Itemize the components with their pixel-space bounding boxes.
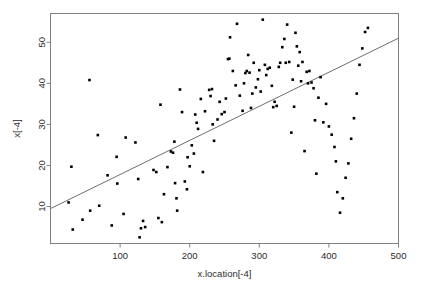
x-tick-label: 400 [321, 250, 337, 261]
data-point [137, 178, 140, 181]
data-point [333, 146, 336, 149]
data-point [225, 97, 228, 100]
data-point [204, 110, 207, 113]
data-point [186, 156, 189, 159]
data-point [98, 204, 101, 207]
data-point [138, 236, 141, 239]
data-point [218, 101, 221, 104]
data-point [220, 113, 223, 116]
data-point [347, 162, 350, 165]
data-points [67, 18, 369, 238]
data-point [293, 105, 296, 108]
data-point [281, 46, 284, 49]
data-point [273, 101, 276, 104]
x-tick-label: 500 [391, 250, 407, 261]
data-point [173, 140, 176, 143]
data-point [265, 74, 268, 77]
data-point [298, 51, 301, 54]
data-point [181, 111, 184, 114]
y-axis-title: x[-4] [11, 119, 22, 137]
data-point [202, 171, 205, 174]
data-point [166, 166, 169, 169]
data-point [197, 128, 200, 131]
data-point [258, 69, 261, 72]
data-point [261, 18, 264, 21]
data-point [300, 80, 303, 83]
data-point [110, 224, 113, 227]
data-point [172, 151, 175, 154]
data-point [116, 182, 119, 185]
data-point [228, 57, 231, 60]
data-point [259, 90, 262, 93]
data-point [67, 201, 70, 204]
data-point [179, 88, 182, 91]
data-point [317, 96, 320, 99]
data-point [312, 87, 315, 90]
data-point [175, 197, 178, 200]
data-point [234, 84, 237, 87]
data-point [232, 70, 235, 73]
data-point [241, 110, 244, 113]
data-point [330, 133, 333, 136]
data-point [152, 169, 155, 172]
data-point [290, 131, 293, 134]
fit-line [51, 38, 399, 208]
regression-line [51, 38, 399, 208]
data-point [250, 107, 253, 110]
data-point [159, 103, 162, 106]
x-tick-label: 100 [112, 250, 128, 261]
data-point [163, 193, 166, 196]
data-point [364, 31, 367, 34]
data-point [161, 221, 164, 224]
data-point [308, 70, 311, 73]
data-point [89, 209, 92, 212]
data-point [188, 165, 191, 168]
plot-border [51, 14, 399, 244]
y-tick-label: 40 [36, 78, 47, 89]
data-point [355, 92, 358, 95]
data-point [315, 172, 318, 175]
data-point [257, 78, 260, 81]
data-point [319, 76, 322, 79]
data-point [297, 64, 300, 67]
data-point [140, 227, 143, 230]
data-point [209, 95, 212, 98]
data-point [186, 188, 189, 191]
data-point [252, 61, 255, 64]
data-point [336, 191, 339, 194]
data-point [81, 218, 84, 221]
data-point [211, 88, 214, 91]
x-axis-title: x.location[-4] [198, 268, 252, 279]
data-point [264, 64, 267, 67]
data-point [358, 64, 361, 67]
data-point [71, 228, 74, 231]
data-point [296, 45, 299, 48]
data-point [193, 152, 196, 155]
data-point [174, 182, 177, 185]
data-point [294, 32, 297, 35]
data-point [200, 98, 203, 101]
data-point [307, 82, 310, 85]
data-point [223, 111, 226, 114]
data-point [248, 71, 251, 74]
data-point [288, 61, 291, 64]
data-point [279, 61, 282, 64]
data-point [277, 66, 280, 69]
data-point [88, 79, 91, 82]
data-point [184, 180, 187, 183]
data-point [243, 82, 246, 85]
data-point [291, 78, 294, 81]
data-point [236, 22, 239, 25]
data-point [211, 123, 214, 126]
y-tick-label: 10 [36, 201, 47, 212]
data-point [255, 86, 258, 89]
data-point [106, 174, 109, 177]
data-point [195, 121, 198, 124]
data-point [157, 217, 160, 220]
data-point [176, 209, 179, 212]
data-point [271, 84, 274, 87]
data-point [328, 125, 331, 128]
data-point [216, 118, 219, 121]
data-point [310, 81, 313, 84]
data-point [339, 211, 342, 214]
